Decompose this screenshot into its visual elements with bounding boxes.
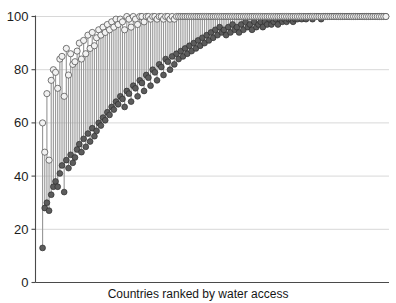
low-value-marker [70,160,76,166]
low-value-marker [53,179,59,185]
low-value-marker [48,192,54,198]
high-value-marker [59,53,65,59]
high-value-marker [119,19,125,25]
high-value-marker [74,48,80,54]
low-value-marker [165,59,171,65]
y-tick-label: 20 [14,222,28,237]
chart-container: 020406080100 Countries ranked by water a… [0,0,396,303]
low-value-marker [83,144,89,150]
y-tick-label: 0 [21,275,28,290]
high-value-marker [78,56,84,62]
high-value-marker [89,29,95,35]
high-value-marker [61,93,67,99]
high-value-marker [63,45,69,51]
low-value-marker [55,184,61,190]
low-value-marker [107,112,113,118]
high-value-marker [81,37,87,43]
low-value-marker [79,149,85,155]
high-value-marker [383,13,389,19]
low-value-marker [85,131,91,137]
low-value-marker [87,139,93,145]
low-value-marker [145,75,151,81]
low-value-marker [57,171,63,177]
low-value-marker [135,93,141,99]
high-value-marker [134,21,140,27]
low-value-marker [63,157,69,163]
high-value-marker [55,85,61,91]
low-value-marker [72,155,78,161]
low-value-marker [98,123,104,129]
low-value-marker [158,64,164,70]
low-value-marker [46,208,52,214]
low-value-marker [167,67,173,73]
low-value-marker [161,72,167,78]
y-tick-label: 40 [14,169,28,184]
low-value-marker [126,91,132,97]
high-value-marker [68,51,74,57]
low-value-marker [111,107,117,113]
high-value-marker [39,120,45,126]
y-tick-label: 100 [7,9,29,24]
low-value-marker [59,163,65,169]
low-value-marker [102,117,108,123]
high-value-marker [46,157,52,163]
high-value-marker [65,72,71,78]
low-value-marker [94,128,100,134]
low-value-marker [120,96,126,102]
low-value-marker [40,245,46,251]
low-value-marker [141,88,147,94]
low-value-marker [66,165,72,171]
low-value-marker [171,61,177,67]
high-value-marker [122,27,128,33]
y-tick-labels-group: 020406080100 [7,9,29,290]
x-axis-title: Countries ranked by water access [108,287,289,301]
high-value-marker [83,51,89,57]
high-value-marker [52,69,58,75]
low-value-marker [81,136,87,142]
low-value-marker [61,189,67,195]
low-value-marker [154,77,160,83]
low-value-marker [128,99,134,105]
high-value-marker [72,59,78,65]
y-tick-label: 60 [14,115,28,130]
low-value-marker [115,101,121,107]
high-value-marker [48,77,54,83]
low-value-marker [92,133,98,139]
high-value-marker [42,149,48,155]
low-value-marker [122,104,128,110]
high-value-marker [91,43,97,49]
low-value-marker [44,200,50,206]
range-plot: 020406080100 Countries ranked by water a… [0,0,396,303]
high-value-marker [44,91,50,97]
low-value-marker [133,85,139,91]
y-tick-label: 80 [14,62,28,77]
low-value-marker [152,69,158,75]
high-value-marker [128,24,134,30]
low-value-marker [148,83,154,89]
low-value-marker [139,80,145,86]
low-value-marker [76,141,82,147]
